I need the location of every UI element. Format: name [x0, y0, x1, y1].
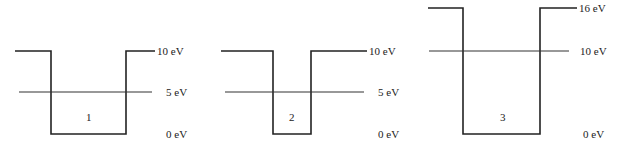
well-1-level-label: 5 eV	[166, 86, 187, 98]
well-2-barrier-label: 10 eV	[369, 45, 396, 57]
well-1-number: 1	[86, 111, 92, 123]
well-2-level-label: 5 eV	[378, 86, 399, 98]
well-3-barrier-label: 16 eV	[579, 2, 606, 14]
well-2: 2 10 eV 5 eV 0 eV	[221, 45, 399, 140]
well-3-bottom-label: 0 eV	[583, 128, 604, 140]
well-3-number: 3	[500, 111, 506, 123]
well-3: 3 16 eV 10 eV 0 eV	[428, 2, 607, 140]
potential-wells-diagram: 1 10 eV 5 eV 0 eV 2 10 eV 5 eV 0 eV 3 16…	[0, 0, 618, 151]
well-3-level-label: 10 eV	[580, 45, 607, 57]
well-1: 1 10 eV 5 eV 0 eV	[15, 45, 187, 140]
well-2-bottom-label: 0 eV	[378, 128, 399, 140]
well-2-number: 2	[289, 111, 295, 123]
well-1-barrier-label: 10 eV	[157, 45, 184, 57]
well-1-bottom-label: 0 eV	[166, 128, 187, 140]
